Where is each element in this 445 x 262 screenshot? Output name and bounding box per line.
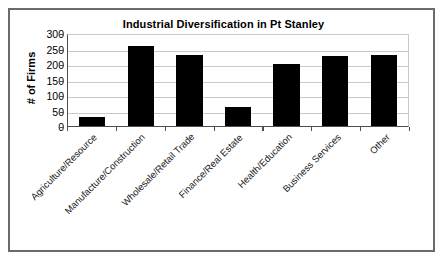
y-tick-mark-250 (60, 50, 64, 51)
bar-wholesale-retail-trade[interactable] (176, 55, 202, 126)
x-tick-mark (409, 127, 410, 131)
x-tick-mark (311, 127, 312, 131)
bar-slot (117, 35, 166, 126)
y-tick-mark-200 (60, 65, 64, 66)
x-tick-mark (214, 127, 215, 131)
chart-screenshot: Industrial Diversification in Pt Stanley… (0, 0, 445, 262)
chart-title: Industrial Diversification in Pt Stanley (10, 18, 437, 30)
bar-health-education[interactable] (273, 64, 299, 126)
bar-slot (165, 35, 214, 126)
x-tick-mark (165, 127, 166, 131)
bars-layer (68, 35, 408, 126)
y-tick-mark-50 (60, 112, 64, 113)
y-tick-mark-150 (60, 81, 64, 82)
bar-finance-real-estate[interactable] (225, 107, 251, 126)
x-tick-label-manufacture-construction: Manufacture/Construction (63, 132, 147, 216)
x-tick-mark (116, 127, 117, 131)
x-tick-mark (67, 127, 68, 131)
bar-slot (214, 35, 263, 126)
bar-slot (68, 35, 117, 126)
y-tick-mark-100 (60, 96, 64, 97)
bar-slot (359, 35, 408, 126)
bar-other[interactable] (371, 55, 397, 126)
bar-manufacture-construction[interactable] (128, 46, 154, 126)
x-axis-tick-labels: Agriculture/Resource Manufacture/Constru… (67, 132, 409, 242)
bar-agriculture-resource[interactable] (79, 117, 105, 126)
x-tick-label-other: Other (368, 132, 392, 156)
y-axis-tick-marks (10, 34, 70, 127)
y-tick-mark-0 (60, 127, 64, 128)
chart-frame: Industrial Diversification in Pt Stanley… (8, 8, 435, 252)
x-tick-mark (360, 127, 361, 131)
bar-slot (262, 35, 311, 126)
plot-area (67, 34, 409, 127)
y-tick-mark-300 (60, 34, 64, 35)
bar-business-services[interactable] (322, 56, 348, 126)
bar-slot (311, 35, 360, 126)
x-tick-mark (262, 127, 263, 131)
